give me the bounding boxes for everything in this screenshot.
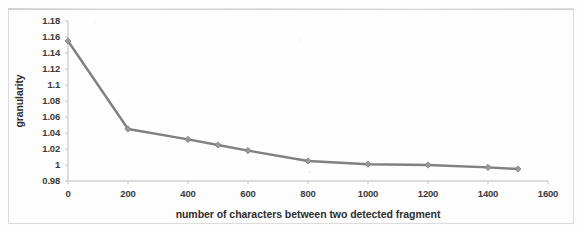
y-tick-label: 1.04 bbox=[26, 127, 60, 138]
series-line bbox=[68, 41, 518, 169]
series-markers bbox=[65, 38, 521, 172]
y-tick-label: 1.18 bbox=[26, 15, 60, 26]
x-tick-label: 1200 bbox=[408, 188, 448, 199]
x-tick-label: 1600 bbox=[528, 188, 568, 199]
granularity-line-chart: 0.9811.021.041.061.081.11.121.141.161.18… bbox=[0, 0, 585, 233]
x-tick-label: 400 bbox=[168, 188, 208, 199]
data-point-marker bbox=[245, 148, 251, 154]
data-point-marker bbox=[185, 136, 191, 142]
y-tick-label: 0.98 bbox=[26, 175, 60, 186]
y-tick-label: 1.02 bbox=[26, 143, 60, 154]
y-tick-label: 1.1 bbox=[26, 79, 60, 90]
data-point-marker bbox=[515, 166, 521, 172]
x-tick-label: 1400 bbox=[468, 188, 508, 199]
x-tick-label: 800 bbox=[288, 188, 328, 199]
data-series-granularity bbox=[65, 38, 521, 172]
y-tick-label: 1.06 bbox=[26, 111, 60, 122]
y-tick-label: 1.12 bbox=[26, 63, 60, 74]
x-axis-title: number of characters between two detecte… bbox=[68, 208, 548, 220]
data-point-marker bbox=[365, 161, 371, 167]
y-tick-label: 1 bbox=[26, 159, 60, 170]
y-tick-label: 1.16 bbox=[26, 31, 60, 42]
x-tick-label: 1000 bbox=[348, 188, 388, 199]
y-tick-label: 1.14 bbox=[26, 47, 60, 58]
data-point-marker bbox=[425, 162, 431, 168]
y-axis-title: granularity bbox=[13, 56, 25, 146]
data-point-marker bbox=[485, 164, 491, 170]
data-point-marker bbox=[305, 158, 311, 164]
x-tick-label: 600 bbox=[228, 188, 268, 199]
x-tick-label: 0 bbox=[48, 188, 88, 199]
x-tick-label: 200 bbox=[108, 188, 148, 199]
y-tick-label: 1.08 bbox=[26, 95, 60, 106]
data-point-marker bbox=[215, 142, 221, 148]
